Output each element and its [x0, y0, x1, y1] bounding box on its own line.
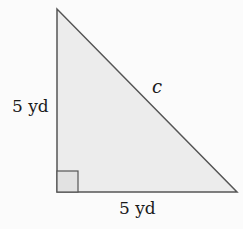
triangle-shape — [57, 9, 237, 192]
right-angle-marker — [57, 171, 78, 192]
horizontal-leg-label: 5 yd — [119, 200, 156, 217]
vertical-leg-label: 5 yd — [12, 98, 49, 115]
hypotenuse-label: c — [152, 78, 162, 96]
